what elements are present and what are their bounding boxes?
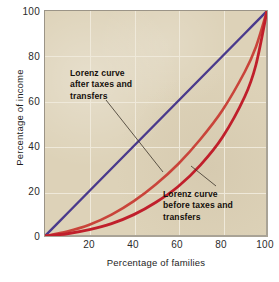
x-axis-title: Percentage of families (44, 257, 268, 268)
gridline-vertical-20 (90, 11, 91, 235)
annotation-before-line-3: transfers (163, 212, 233, 223)
x-tick-label-100: 100 (250, 240, 279, 250)
annotation-after-taxes: Lorenz curve after taxes and transfers (70, 68, 132, 102)
x-tick-label-60: 60 (162, 240, 192, 250)
annotation-before-taxes: Lorenz curve before taxes and transfers (163, 189, 233, 223)
y-tick-label-100: 100 (6, 7, 40, 17)
x-tick-label-20: 20 (74, 240, 104, 250)
gridline-horizontal-80 (45, 56, 266, 57)
y-tick-label-0: 0 (6, 232, 40, 242)
annotation-after-line-1: Lorenz curve (70, 68, 132, 79)
x-tick-label-40: 40 (118, 240, 148, 250)
annotation-before-line-1: Lorenz curve (163, 189, 233, 200)
gridline-vertical-40 (135, 11, 136, 235)
gridline-horizontal-40 (45, 147, 266, 148)
y-axis-title: Percentage of income (14, 43, 25, 193)
x-tick-label-80: 80 (206, 240, 236, 250)
lorenz-curve-figure: Lorenz curve after taxes and transfers L… (0, 0, 279, 282)
annotation-after-line-3: transfers (70, 91, 132, 102)
annotation-after-line-2: after taxes and (70, 79, 132, 90)
plot-area (44, 10, 268, 237)
annotation-before-line-2: before taxes and (163, 200, 233, 211)
